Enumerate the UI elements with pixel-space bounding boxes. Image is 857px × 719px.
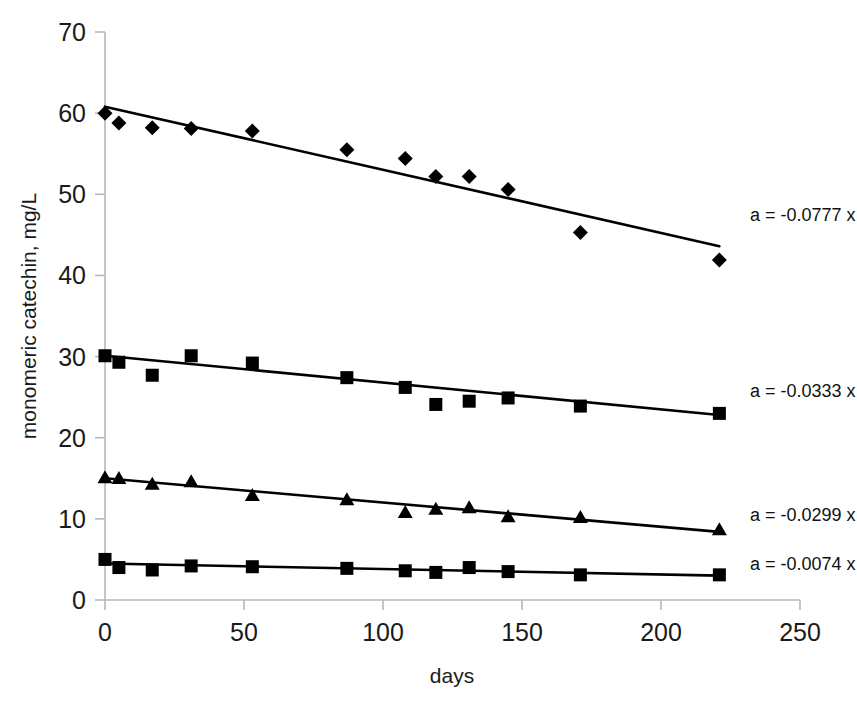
y-tick-label: 10 [58, 505, 86, 533]
chart-figure: 010203040506070 050100150200250 a = -0.0… [0, 0, 857, 719]
slope-annotation-1: a = -0.0777 x [750, 205, 856, 225]
data-point-series-triangle [462, 500, 477, 513]
data-point-series-square-upper [429, 398, 442, 411]
data-point-series-diamond [501, 182, 516, 197]
data-point-series-square-lower [112, 561, 125, 574]
y-tick-label: 20 [58, 424, 86, 452]
data-point-series-square-lower [399, 564, 412, 577]
y-tick-label: 0 [72, 586, 86, 614]
data-point-series-square-upper [246, 357, 259, 370]
slope-annotation-3: a = -0.0299 x [750, 505, 856, 525]
data-point-series-diamond [573, 225, 588, 240]
series-square-lower [99, 553, 726, 581]
data-point-series-square-upper [713, 407, 726, 420]
data-point-series-square-lower [502, 565, 515, 578]
data-point-series-diamond [145, 120, 160, 135]
data-point-series-diamond [245, 123, 260, 138]
x-tick-label: 200 [640, 618, 682, 646]
x-tick-label: 0 [98, 618, 112, 646]
data-point-series-square-upper [99, 349, 112, 362]
data-point-series-diamond [184, 121, 199, 136]
data-point-series-square-upper [340, 371, 353, 384]
scatter-chart: 010203040506070 050100150200250 a = -0.0… [0, 0, 857, 719]
x-axis-title: days [430, 664, 474, 687]
series-diamond [98, 106, 727, 268]
y-tick-label: 30 [58, 343, 86, 371]
slope-annotation-4: a = -0.0074 x [750, 554, 856, 574]
data-point-series-square-lower [713, 568, 726, 581]
y-axis-ticks: 010203040506070 [58, 18, 105, 614]
series-square-upper [99, 349, 726, 420]
data-point-series-square-upper [502, 391, 515, 404]
trend-line-series-square-upper [105, 356, 719, 415]
data-point-series-triangle [501, 509, 516, 522]
data-point-series-square-upper [463, 395, 476, 408]
data-point-series-diamond [111, 115, 126, 130]
data-point-series-square-upper [399, 381, 412, 394]
y-axis-title: monomeric catechin, mg/L [17, 193, 40, 439]
data-point-series-square-upper [574, 400, 587, 413]
data-point-series-diamond [398, 151, 413, 166]
data-point-series-square-lower [574, 568, 587, 581]
y-tick-label: 40 [58, 261, 86, 289]
data-point-series-square-upper [112, 356, 125, 369]
data-point-series-triangle [398, 505, 413, 518]
data-point-series-diamond [462, 169, 477, 184]
x-tick-label: 100 [362, 618, 404, 646]
axes-group [105, 32, 800, 600]
series-layer [98, 106, 727, 582]
data-point-series-square-lower [429, 566, 442, 579]
y-tick-label: 70 [58, 18, 86, 46]
y-tick-label: 60 [58, 99, 86, 127]
x-tick-label: 150 [501, 618, 543, 646]
data-point-series-square-lower [146, 563, 159, 576]
slope-annotation-2: a = -0.0333 x [750, 381, 856, 401]
data-point-series-square-lower [246, 560, 259, 573]
data-point-series-square-lower [463, 561, 476, 574]
data-point-series-triangle [573, 510, 588, 523]
data-point-series-triangle [184, 474, 199, 487]
series-triangle [98, 470, 727, 535]
data-point-series-square-lower [185, 559, 198, 572]
data-point-series-diamond [339, 142, 354, 157]
annotation-layer: a = -0.0777 xa = -0.0333 xa = -0.0299 xa… [750, 205, 856, 575]
x-axis-ticks: 050100150200250 [98, 600, 821, 646]
data-point-series-diamond [712, 253, 727, 268]
data-point-series-triangle [111, 471, 126, 484]
x-tick-label: 50 [230, 618, 258, 646]
data-point-series-triangle [98, 470, 113, 483]
data-point-series-square-lower [99, 553, 112, 566]
data-point-series-square-upper [146, 369, 159, 382]
x-tick-label: 250 [779, 618, 821, 646]
data-point-series-triangle [712, 522, 727, 535]
y-tick-label: 50 [58, 180, 86, 208]
data-point-series-square-upper [185, 349, 198, 362]
data-point-series-square-lower [340, 562, 353, 575]
